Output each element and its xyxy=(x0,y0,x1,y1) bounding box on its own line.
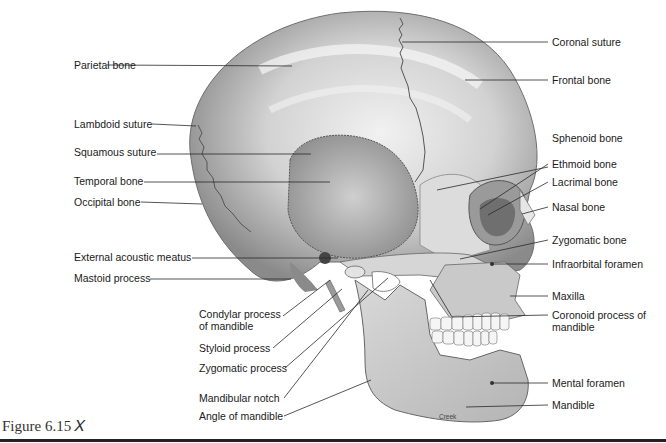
label-mandibular-notch: Mandibular notch xyxy=(199,392,280,404)
label-squamous-suture: Squamous suture xyxy=(74,146,156,158)
label-coronoid-process: Coronoid process of mandible xyxy=(552,309,652,333)
bottom-rule xyxy=(0,439,666,442)
illustrator-credit: Creek xyxy=(439,413,456,420)
maxilla-shape xyxy=(430,262,525,320)
skull-lateral-diagram: Parietal bone Lambdoid suture Squamous s… xyxy=(0,0,666,443)
label-mental-foramen: Mental foramen xyxy=(552,377,625,389)
label-lambdoid-suture: Lambdoid suture xyxy=(74,118,152,130)
label-angle-of-mandible: Angle of mandible xyxy=(199,410,283,422)
label-styloid-process: Styloid process xyxy=(199,342,270,354)
label-infraorbital-foramen: Infraorbital foramen xyxy=(552,258,643,270)
label-nasal-bone: Nasal bone xyxy=(552,201,605,213)
condyle-shape xyxy=(345,266,365,278)
label-mandible: Mandible xyxy=(552,399,595,411)
label-zygomatic-bone: Zygomatic bone xyxy=(552,234,627,246)
label-coronal-suture: Coronal suture xyxy=(552,36,621,48)
label-frontal-bone: Frontal bone xyxy=(552,74,611,86)
label-ethmoid-bone: Ethmoid bone xyxy=(552,158,617,170)
label-temporal-bone: Temporal bone xyxy=(74,175,143,187)
label-zygomatic-process: Zygomatic process xyxy=(199,362,287,374)
figure-person-icon: 𝛸 xyxy=(74,418,85,434)
teeth xyxy=(430,313,509,346)
label-mastoid-process: Mastoid process xyxy=(74,272,150,284)
label-condylar-process: Condylar process of mandible xyxy=(199,308,284,332)
label-maxilla: Maxilla xyxy=(552,290,585,302)
figure-caption: Figure 6.15𝛸 xyxy=(2,418,85,435)
label-lacrimal-bone: Lacrimal bone xyxy=(552,176,618,188)
styloid-process-shape xyxy=(326,280,345,312)
figure-label: Figure 6.15 xyxy=(2,418,71,434)
label-occipital-bone: Occipital bone xyxy=(74,196,141,208)
label-external-acoustic-meatus: External acoustic meatus xyxy=(74,251,191,263)
label-parietal-bone: Parietal bone xyxy=(74,59,136,71)
label-sphenoid-bone: Sphenoid bone xyxy=(552,132,623,144)
